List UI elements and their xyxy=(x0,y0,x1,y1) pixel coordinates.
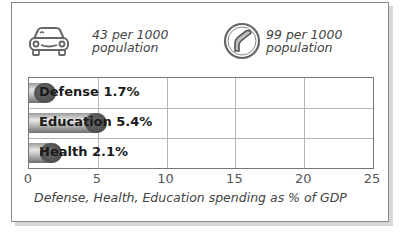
bar-row-defense: Defense 1.7% xyxy=(29,78,373,108)
x-tick-label: 0 xyxy=(24,171,32,186)
bar-label-health: Health 2.1% xyxy=(39,144,128,159)
bar-chart-plot-area: Defense 1.7%Education 5.4%Health 2.1% xyxy=(28,77,374,169)
x-tick-label: 15 xyxy=(226,171,243,186)
bar-label-defense: Defense 1.7% xyxy=(39,84,139,99)
stat-line-2: population xyxy=(92,41,168,54)
infographic-card: 43 per 1000 population 99 per 1000 popul… xyxy=(11,2,389,222)
car-ownership-stat: 43 per 1000 population xyxy=(28,25,168,57)
bar-label-education: Education 5.4% xyxy=(39,114,152,129)
stat-line-2: population xyxy=(266,41,342,54)
x-tick-label: 5 xyxy=(93,171,101,186)
x-tick-label: 25 xyxy=(364,171,381,186)
x-tick-label: 20 xyxy=(295,171,312,186)
car-icon xyxy=(28,25,70,57)
phone-handset-icon xyxy=(222,21,262,61)
x-axis-label: Defense, Health, Education spending as %… xyxy=(34,190,347,205)
car-ownership-value: 43 per 1000 population xyxy=(92,28,168,54)
phone-ownership-value: 99 per 1000 population xyxy=(266,28,342,54)
x-tick-label: 10 xyxy=(157,171,174,186)
bar-row-education: Education 5.4% xyxy=(29,108,373,138)
phone-ownership-stat: 99 per 1000 population xyxy=(222,21,342,61)
bar-row-health: Health 2.1% xyxy=(29,138,373,168)
